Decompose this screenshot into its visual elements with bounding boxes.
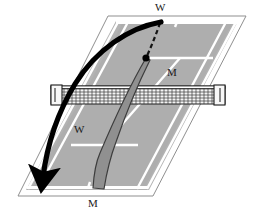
tennis-court-diagram: W M W M bbox=[0, 0, 259, 214]
label-far-court-m: M bbox=[167, 67, 177, 78]
tennis-net bbox=[51, 85, 225, 105]
label-top-w: W bbox=[155, 2, 166, 13]
label-near-court-w: W bbox=[74, 124, 85, 135]
label-bottom-m: M bbox=[88, 198, 98, 209]
court-illustration bbox=[0, 0, 259, 214]
net-post-left bbox=[51, 85, 62, 105]
ball-dot bbox=[142, 54, 149, 61]
